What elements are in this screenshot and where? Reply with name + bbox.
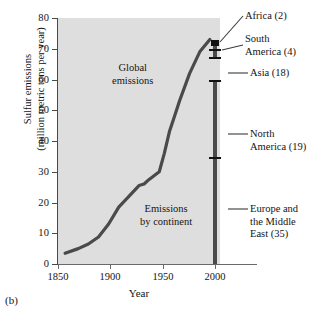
callout-europe-middle-east-line3: East (35) xyxy=(250,228,298,241)
callout-europe-middle-east: Europe and the Middle East (35) xyxy=(250,203,298,241)
leader-line-south-america xyxy=(222,45,243,50)
callout-asia-line1: Asia (18) xyxy=(250,67,289,80)
stacked-bar-by-continent xyxy=(213,81,217,264)
bar-divider-south-america xyxy=(209,49,221,51)
x-tick-1900 xyxy=(110,264,111,269)
x-tick-label-2000: 2000 xyxy=(205,271,226,282)
y-axis-title: Sulfur emissions (million metric tons pe… xyxy=(21,0,47,189)
callout-south-america-line1: South xyxy=(245,33,296,46)
callout-europe-middle-east-line2: the Middle xyxy=(250,216,298,229)
callout-north-america-line2: America (19) xyxy=(250,141,306,154)
y-axis-title-line1: Sulfur emissions xyxy=(21,0,34,189)
x-tick-label-1900: 1900 xyxy=(100,271,121,282)
callout-south-america: South America (4) xyxy=(245,33,296,58)
x-tick-label-1850: 1850 xyxy=(48,271,69,282)
bar-segment-africa xyxy=(211,40,219,46)
callout-north-america-line1: North xyxy=(250,128,306,141)
leader-line-africa xyxy=(220,16,243,42)
global-emissions-curve xyxy=(58,18,220,264)
callout-asia: Asia (18) xyxy=(250,67,289,80)
y-tick-label-0: 0 xyxy=(44,259,49,270)
callout-europe-middle-east-line1: Europe and xyxy=(250,203,298,216)
y-axis-title-line2: (million metric tons per year) xyxy=(34,0,47,189)
x-axis-title: Year xyxy=(58,287,220,299)
x-tick-1850 xyxy=(58,264,59,269)
bar-divider-north-america-top xyxy=(209,80,221,82)
y-tick-label-20: 20 xyxy=(38,198,49,209)
panel-letter: (b) xyxy=(5,294,18,306)
figure-panel-b: 80 70 60 50 40 30 20 10 0 1850 1900 1950… xyxy=(0,0,317,315)
x-tick-1950 xyxy=(163,264,164,269)
x-tick-label-1950: 1950 xyxy=(153,271,174,282)
callout-africa-line1: Africa (2) xyxy=(245,10,287,23)
bar-divider-europe-middle-east xyxy=(209,157,221,159)
callout-africa: Africa (2) xyxy=(245,10,287,23)
y-tick-label-10: 10 xyxy=(38,228,49,239)
callout-north-america: North America (19) xyxy=(250,128,306,153)
global-emissions-polyline xyxy=(65,40,210,254)
x-tick-2000 xyxy=(215,264,216,269)
callout-south-america-line2: America (4) xyxy=(245,46,296,59)
x-axis-line xyxy=(57,264,257,265)
bar-divider-asia xyxy=(209,57,221,59)
